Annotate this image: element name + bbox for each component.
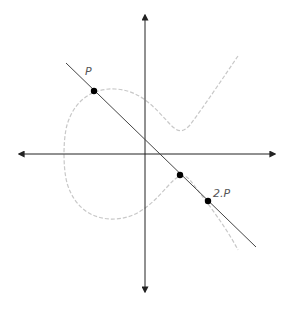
point-intersection [177,172,183,178]
elliptic-curve-diagram: P 2.P [0,0,286,309]
label-p: P [85,65,92,78]
point-p [91,88,97,94]
elliptic-curve [64,56,238,250]
label-2p: 2.P [213,187,230,200]
point-2p [205,198,211,204]
